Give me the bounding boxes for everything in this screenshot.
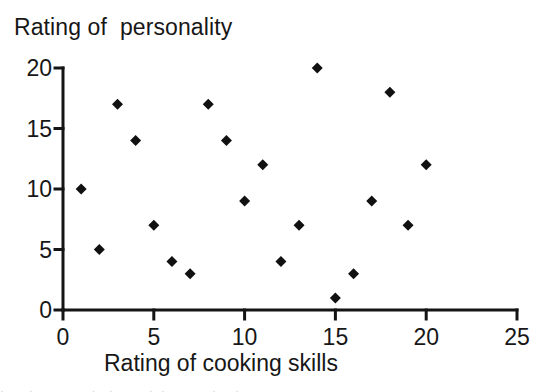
- chart-figure: Rating of personality 20151050 051015202…: [0, 0, 545, 392]
- data-point-marker: [76, 184, 87, 195]
- data-point-marker: [330, 292, 341, 303]
- data-point-marker: [421, 159, 432, 170]
- data-point-marker: [221, 135, 232, 146]
- data-point-marker: [203, 99, 214, 110]
- data-point-marker: [112, 99, 123, 110]
- data-point-marker: [312, 63, 323, 74]
- data-point-marker: [94, 244, 105, 255]
- x-tick-label: 5: [147, 324, 160, 351]
- y-tick-label: 20: [8, 55, 52, 82]
- y-tick-label: 5: [8, 236, 52, 263]
- data-point-marker: [403, 220, 414, 231]
- data-point-marker: [239, 196, 250, 207]
- x-tick-label: 15: [323, 324, 349, 351]
- data-point-marker: [366, 196, 377, 207]
- scatter-plot-canvas: [0, 0, 545, 392]
- axis-lines: [63, 68, 517, 310]
- y-tick-label: 10: [8, 176, 52, 203]
- data-point-marker: [185, 268, 196, 279]
- y-tick-label: 0: [8, 297, 52, 324]
- data-point-marker: [384, 87, 395, 98]
- y-tick-label: 15: [8, 115, 52, 142]
- data-point-marker: [166, 256, 177, 267]
- data-point-marker: [348, 268, 359, 279]
- data-point-marker: [294, 220, 305, 231]
- x-tick-label: 0: [57, 324, 70, 351]
- data-point-marker: [130, 135, 141, 146]
- x-tick-label: 10: [232, 324, 258, 351]
- x-tick-label: 25: [504, 324, 530, 351]
- data-point-marker: [275, 256, 286, 267]
- data-point-marker: [257, 159, 268, 170]
- x-tick-label: 20: [413, 324, 439, 351]
- scan-artifact-text: · · · · · · · ·: [0, 383, 545, 392]
- data-point-marker: [148, 220, 159, 231]
- axis-tick-marks: [55, 68, 517, 319]
- data-point-markers: [76, 63, 432, 304]
- x-axis-label: Rating of cooking skills: [104, 350, 338, 377]
